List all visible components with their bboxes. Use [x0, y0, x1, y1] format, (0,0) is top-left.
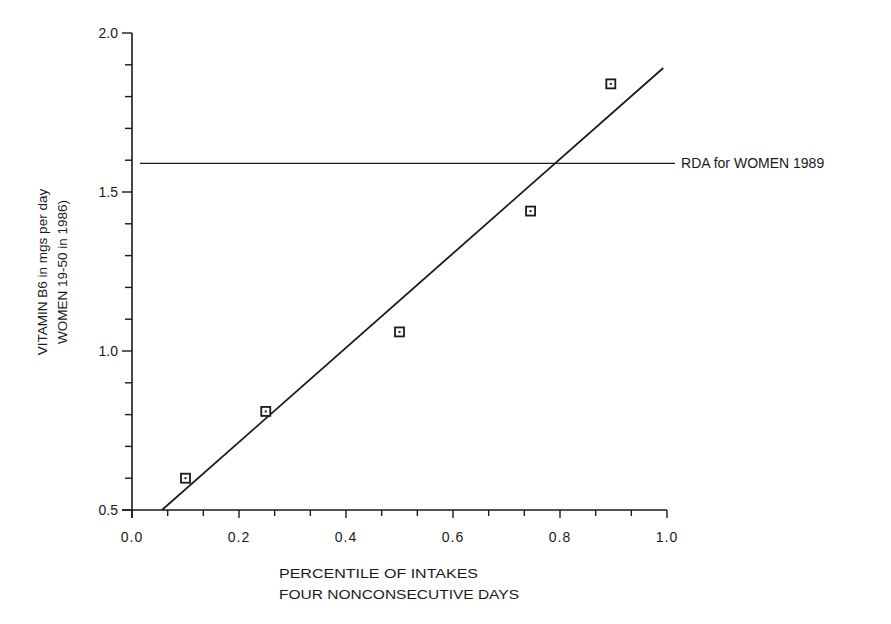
axes [122, 33, 667, 518]
data-point [526, 207, 535, 216]
y-axis-title-line-1: VITAMIN B6 in mgs per day [35, 189, 50, 356]
rda-reference-label: RDA for WOMEN 1989 [681, 155, 824, 171]
x-tick-label: 1.0 [656, 529, 678, 545]
data-point-center-dot [399, 331, 401, 333]
chart: 0.51.01.52.0 0.00.20.40.60.81.0 RDA for … [0, 0, 891, 624]
x-axis-title-line-1: PERCENTILE OF INTAKES [279, 566, 478, 581]
data-points [181, 79, 615, 482]
y-axis-title-line-2: WOMEN 19-50 in 1986) [55, 200, 70, 344]
fit-line-group [162, 68, 663, 510]
y-axis-title: VITAMIN B6 in mgs per day WOMEN 19-50 in… [35, 189, 70, 356]
x-tick-label: 0.8 [549, 529, 571, 545]
x-ticks [132, 510, 667, 518]
x-tick-label: 0.4 [335, 529, 357, 545]
x-tick-label: 0.0 [121, 529, 143, 545]
y-tick-label: 2.0 [99, 25, 119, 41]
data-point [261, 407, 270, 416]
y-tick-labels: 0.51.01.52.0 [99, 25, 119, 518]
reference-lines: RDA for WOMEN 1989 [140, 155, 824, 171]
regression-line [162, 68, 663, 510]
x-tick-label: 0.2 [228, 529, 250, 545]
y-tick-label: 1.0 [99, 343, 119, 359]
data-point [181, 474, 190, 483]
data-point [606, 79, 615, 88]
x-axis-title: PERCENTILE OF INTAKES FOUR NONCONSECUTIV… [279, 566, 519, 602]
data-point [395, 327, 404, 336]
y-tick-label: 0.5 [99, 502, 119, 518]
data-point-center-dot [530, 210, 532, 212]
y-ticks [122, 33, 132, 510]
x-tick-label: 0.6 [442, 529, 464, 545]
x-axis-title-line-2: FOUR NONCONSECUTIVE DAYS [279, 587, 519, 602]
data-point-center-dot [185, 477, 187, 479]
y-tick-label: 1.5 [99, 184, 119, 200]
data-point-center-dot [610, 83, 612, 85]
x-tick-labels: 0.00.20.40.60.81.0 [121, 529, 678, 545]
data-point-center-dot [265, 410, 267, 412]
